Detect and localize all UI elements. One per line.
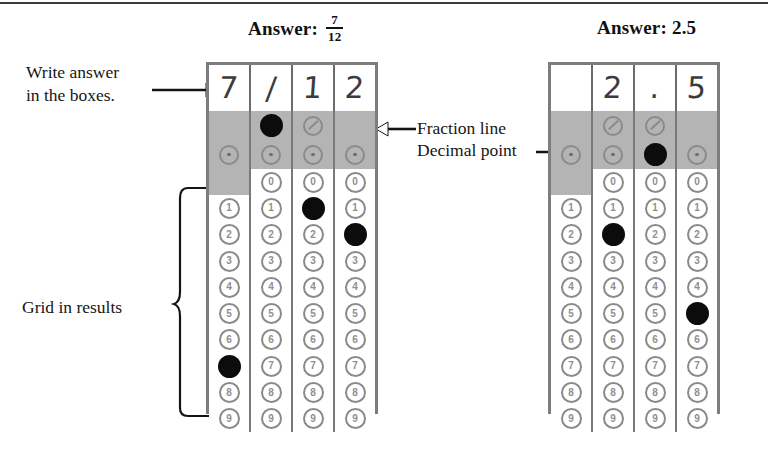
digit-cell[interactable]: 2 <box>551 222 591 248</box>
fraction-line-row[interactable] <box>551 111 717 140</box>
digit-cell[interactable]: 4 <box>209 274 249 300</box>
digit-bubble[interactable]: 3 <box>603 251 624 272</box>
fraction-line-cell[interactable] <box>291 111 333 140</box>
digit-cell[interactable]: 9 <box>335 406 375 432</box>
digit-cell[interactable]: 0 <box>293 169 333 195</box>
digit-grid[interactable]: 1234567890134567890123456789012346789 <box>551 169 717 432</box>
digit-cell[interactable]: 7 <box>551 353 591 379</box>
write-cell[interactable]: 2 <box>591 65 633 111</box>
digit-bubble[interactable]: 6 <box>303 329 324 350</box>
digit-bubble[interactable]: 4 <box>603 277 624 298</box>
digit-bubble[interactable]: 2 <box>561 224 582 245</box>
digit-bubble[interactable]: 8 <box>645 382 666 403</box>
digit-bubble[interactable]: 8 <box>261 382 282 403</box>
digit-bubble[interactable]: 8 <box>219 382 240 403</box>
digit-bubble[interactable]: 6 <box>345 329 366 350</box>
digit-cell[interactable]: 5 <box>209 300 249 326</box>
digit-bubble[interactable]: 5 <box>561 303 582 324</box>
digit-cell[interactable]: 8 <box>209 379 249 405</box>
digit-cell[interactable]: 4 <box>635 274 675 300</box>
digit-column[interactable]: 123456789 <box>551 169 591 432</box>
decimal-point-cell[interactable] <box>209 140 249 169</box>
digit-bubble[interactable]: 7 <box>687 356 708 377</box>
digit-bubble[interactable]: 7 <box>261 356 282 377</box>
fraction-line-bubble[interactable] <box>603 116 623 136</box>
digit-cell[interactable]: 4 <box>293 274 333 300</box>
digit-bubble[interactable]: 0 <box>687 172 708 193</box>
digit-bubble[interactable]: 0 <box>645 172 666 193</box>
digit-bubble[interactable]: 0 <box>261 172 282 193</box>
digit-cell[interactable] <box>335 222 375 248</box>
decimal-point-bubble[interactable] <box>345 145 365 165</box>
digit-bubble[interactable]: 2 <box>303 224 324 245</box>
digit-bubble[interactable]: 1 <box>345 198 366 219</box>
digit-bubble[interactable]: 9 <box>687 408 708 429</box>
digit-bubble[interactable]: 1 <box>261 198 282 219</box>
decimal-point-row[interactable] <box>209 140 375 169</box>
digit-bubble[interactable]: 8 <box>687 382 708 403</box>
digit-bubble[interactable]: 4 <box>303 277 324 298</box>
digit-cell[interactable]: 8 <box>677 379 717 405</box>
digit-cell[interactable]: 1 <box>251 195 291 221</box>
digit-bubble[interactable]: 5 <box>303 303 324 324</box>
digit-cell[interactable]: 7 <box>677 353 717 379</box>
decimal-point-bubble[interactable] <box>219 145 239 165</box>
digit-bubble[interactable]: 3 <box>645 251 666 272</box>
decimal-point-bubble[interactable] <box>561 145 581 165</box>
digit-cell[interactable]: 3 <box>593 248 633 274</box>
digit-bubble[interactable]: 7 <box>345 356 366 377</box>
digit-cell[interactable]: 5 <box>335 300 375 326</box>
digit-bubble[interactable]: 9 <box>561 408 582 429</box>
digit-cell[interactable] <box>293 195 333 221</box>
decimal-point-cell[interactable] <box>675 140 717 169</box>
digit-column[interactable]: 013456789 <box>333 169 375 432</box>
digit-cell[interactable]: 4 <box>677 274 717 300</box>
digit-cell[interactable]: 3 <box>551 248 591 274</box>
fraction-line-cell[interactable] <box>249 111 291 140</box>
digit-cell[interactable]: 8 <box>593 379 633 405</box>
digit-grid[interactable]: 123456890123456789023456789013456789 <box>209 169 375 432</box>
digit-cell[interactable]: 8 <box>635 379 675 405</box>
digit-bubble[interactable]: 1 <box>603 198 624 219</box>
digit-bubble[interactable]: 6 <box>219 329 240 350</box>
digit-bubble-filled[interactable] <box>602 223 625 246</box>
digit-bubble[interactable]: 0 <box>345 172 366 193</box>
digit-bubble[interactable]: 2 <box>645 224 666 245</box>
digit-cell[interactable]: 3 <box>293 248 333 274</box>
digit-cell[interactable]: 3 <box>251 248 291 274</box>
digit-cell[interactable]: 6 <box>209 327 249 353</box>
digit-bubble-filled[interactable] <box>686 302 709 325</box>
write-row[interactable]: 7/12 <box>209 65 375 111</box>
digit-bubble[interactable]: 4 <box>645 277 666 298</box>
digit-cell[interactable]: 5 <box>293 300 333 326</box>
decimal-point-cell[interactable] <box>551 140 591 169</box>
fraction-line-cell[interactable] <box>633 111 675 140</box>
digit-bubble[interactable]: 4 <box>687 277 708 298</box>
digit-bubble[interactable]: 9 <box>645 408 666 429</box>
digit-bubble-filled[interactable] <box>218 355 241 378</box>
digit-cell[interactable]: 6 <box>335 327 375 353</box>
digit-cell[interactable]: 9 <box>209 406 249 432</box>
digit-cell[interactable]: 0 <box>677 169 717 195</box>
digit-cell[interactable]: 2 <box>677 222 717 248</box>
digit-bubble[interactable]: 3 <box>303 251 324 272</box>
fraction-line-bubble[interactable] <box>260 114 283 137</box>
digit-cell[interactable]: 1 <box>335 195 375 221</box>
digit-bubble[interactable]: 5 <box>345 303 366 324</box>
digit-bubble[interactable]: 3 <box>345 251 366 272</box>
digit-bubble[interactable]: 5 <box>219 303 240 324</box>
digit-cell[interactable]: 3 <box>335 248 375 274</box>
digit-cell[interactable]: 1 <box>677 195 717 221</box>
digit-cell[interactable]: 0 <box>593 169 633 195</box>
digit-cell[interactable]: 2 <box>635 222 675 248</box>
digit-bubble[interactable]: 9 <box>261 408 282 429</box>
digit-cell[interactable]: 5 <box>551 300 591 326</box>
write-cell[interactable] <box>551 65 591 111</box>
digit-bubble[interactable]: 7 <box>303 356 324 377</box>
decimal-point-bubble[interactable] <box>687 145 707 165</box>
decimal-point-cell[interactable] <box>333 140 375 169</box>
digit-bubble[interactable]: 6 <box>261 329 282 350</box>
digit-bubble[interactable]: 0 <box>303 172 324 193</box>
digit-cell[interactable]: 1 <box>551 195 591 221</box>
digit-cell[interactable]: 8 <box>251 379 291 405</box>
